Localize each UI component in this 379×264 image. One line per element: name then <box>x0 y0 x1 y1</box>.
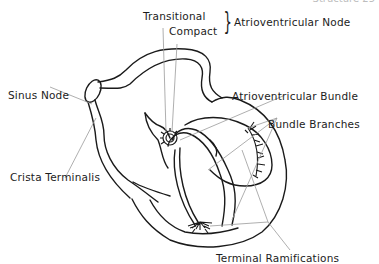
label-crista-terminalis: Crista Terminalis <box>10 171 100 183</box>
label-bundle-branches: Bundle Branches <box>268 118 360 130</box>
label-atrioventricular-bundle: Atrioventricular Bundle <box>232 90 358 102</box>
heart-conduction-diagram: Structure 25 <box>0 0 379 264</box>
label-compact: Compact <box>169 25 217 37</box>
brace-icon: } <box>223 10 231 34</box>
label-atrioventricular-node: Atrioventricular Node <box>234 16 351 28</box>
terminal-ramifications-bottom <box>188 222 212 233</box>
heart-drawing <box>0 0 379 264</box>
label-terminal-ramifications: Terminal Ramifications <box>216 252 339 264</box>
label-sinus-node: Sinus Node <box>8 89 69 101</box>
label-transitional: Transitional <box>143 10 206 22</box>
